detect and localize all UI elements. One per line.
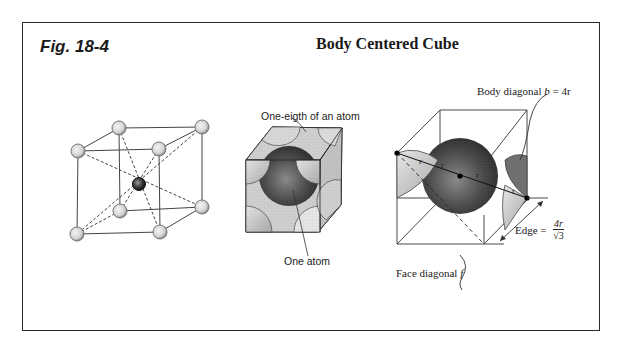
face-diagonal-text: Face diagonal	[396, 267, 457, 279]
corner-atom	[112, 121, 126, 135]
corner-atom	[113, 204, 127, 218]
body-diagonal-text: Body diagonal	[477, 85, 541, 97]
edge-denominator: √3	[553, 230, 564, 241]
corner-atom	[195, 200, 209, 214]
radius-mark: r	[441, 160, 444, 170]
corner-atom	[195, 120, 209, 134]
corner-atom	[71, 144, 85, 158]
body-diagonal-label: Body diagonal b = 4r	[477, 85, 571, 97]
edge-formula: 4r √3	[553, 218, 564, 241]
face-diagonal-variable: f	[460, 267, 463, 279]
diagram-canvas	[0, 0, 631, 347]
face-diagonal-label: Face diagonal f	[396, 267, 463, 279]
edge-numerator: 4r	[553, 218, 564, 230]
body-diagonal-geometry-diagram	[394, 94, 548, 290]
body-diagonal-variable: b	[544, 85, 550, 97]
one-eighth-atom-label: One-eigth of an atom	[261, 110, 360, 122]
corner-point	[394, 150, 399, 155]
body-diagonal-value: = 4r	[552, 85, 570, 97]
radius-mark: r	[476, 170, 479, 180]
center-atom	[133, 178, 146, 191]
corner-atom	[70, 227, 84, 241]
center-point	[457, 173, 462, 178]
radius-mark: r	[512, 186, 515, 196]
bcc-lattice-diagram	[70, 120, 209, 241]
corner-atom	[153, 225, 167, 239]
edge-label: Edge =	[515, 224, 547, 236]
radius-mark: r	[419, 156, 422, 166]
corner-atom	[152, 142, 166, 156]
one-atom-label: One atom	[284, 255, 330, 267]
space-filling-cube-diagram	[246, 118, 342, 256]
